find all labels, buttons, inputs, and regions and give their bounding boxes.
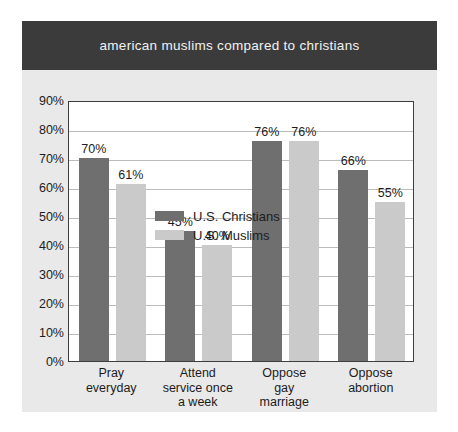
- x-axis-label-line: abortion: [328, 381, 415, 396]
- x-axis-tick-label: Opposeabortion: [328, 366, 415, 395]
- bar-value-label: 70%: [73, 142, 115, 156]
- bar-value-label: 55%: [369, 186, 411, 200]
- y-axis-tick-label: 30%: [18, 268, 64, 282]
- legend-swatch-muslims: [155, 230, 184, 240]
- x-axis-label-line: marriage: [241, 395, 328, 410]
- legend-label-muslims: U.S. Muslims: [193, 228, 270, 243]
- plot-area: 70%61%45%40%76%76%66%55% U.S. Christians…: [68, 101, 414, 362]
- y-axis-tick-label: 70%: [18, 152, 64, 166]
- bar-value-label: 66%: [332, 154, 374, 168]
- bar-christians: [338, 170, 368, 361]
- x-axis-tick-label: Attendservice oncea week: [155, 366, 242, 410]
- bar-muslims: [375, 202, 405, 362]
- x-axis-label-line: Oppose: [328, 366, 415, 381]
- bar-christians: [79, 158, 109, 361]
- bar-value-label: 76%: [246, 125, 288, 139]
- legend-label-christians: U.S. Christians: [193, 209, 280, 224]
- x-axis-label-line: service once: [155, 381, 242, 396]
- legend-swatch-christians: [155, 211, 184, 221]
- chart-figure: american muslims compared to christians …: [0, 0, 458, 432]
- bar-muslims: [289, 141, 319, 361]
- bar-muslims: [116, 184, 146, 361]
- y-axis-labels: 90%80%70%60%50%40%30%20%10%0%: [14, 101, 64, 362]
- x-axis-labels: PrayeverydayAttendservice oncea weekOppo…: [68, 366, 414, 412]
- x-axis-label-line: Attend: [155, 366, 242, 381]
- page-title: american muslims compared to christians: [99, 38, 359, 53]
- y-axis-tick-label: 90%: [18, 94, 64, 108]
- legend-item-muslims: U.S. Muslims: [155, 227, 325, 243]
- y-axis-tick-label: 20%: [18, 297, 64, 311]
- x-axis-label-line: gay: [241, 381, 328, 396]
- y-axis-tick-label: 60%: [18, 181, 64, 195]
- legend-item-christians: U.S. Christians: [155, 208, 325, 224]
- x-axis-label-line: Oppose: [241, 366, 328, 381]
- y-axis-tick-label: 80%: [18, 123, 64, 137]
- bar-christians: [165, 231, 195, 362]
- bar-value-label: 61%: [110, 168, 152, 182]
- y-axis-tick-label: 0%: [18, 355, 64, 369]
- bar-christians: [252, 141, 282, 361]
- x-axis-label-line: a week: [155, 395, 242, 410]
- chart-title-band: american muslims compared to christians: [22, 21, 437, 70]
- y-axis-tick-label: 10%: [18, 326, 64, 340]
- bar-muslims: [202, 245, 232, 361]
- y-axis-tick-label: 40%: [18, 239, 64, 253]
- x-axis-label-line: everyday: [68, 381, 155, 396]
- x-axis-label-line: Pray: [68, 366, 155, 381]
- chart-legend: U.S. Christians U.S. Muslims: [155, 208, 325, 246]
- x-axis-tick-label: Prayeveryday: [68, 366, 155, 395]
- y-axis-tick-label: 50%: [18, 210, 64, 224]
- bar-value-label: 76%: [283, 125, 325, 139]
- x-axis-tick-label: Opposegaymarriage: [241, 366, 328, 410]
